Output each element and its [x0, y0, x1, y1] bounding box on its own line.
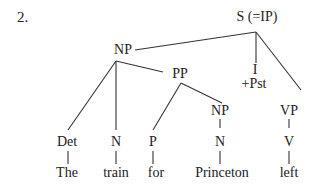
edge-s-np [135, 32, 256, 50]
node-vp: VP [280, 104, 298, 118]
word-left: left [280, 166, 299, 180]
node-pp: PP [172, 67, 188, 81]
edge-np-pp [116, 61, 163, 72]
edge-pp-p [153, 83, 181, 130]
word-the: The [56, 166, 78, 180]
node-s: S (=IP) [237, 10, 278, 24]
node-v: V [284, 135, 294, 149]
node-n-subject: N [111, 135, 121, 149]
node-np-object: NP [211, 104, 229, 118]
word-princeton: Princeton [195, 166, 249, 180]
node-n-object: N [215, 135, 225, 149]
word-train: train [103, 166, 129, 180]
node-i-feature: +Pst [241, 77, 266, 91]
node-np-subject: NP [114, 43, 132, 57]
tree-edges [0, 0, 324, 189]
node-p: P [149, 135, 157, 149]
node-det: Det [57, 135, 77, 149]
edge-pp-np [181, 83, 222, 103]
edge-np-det [68, 61, 116, 130]
word-for: for [148, 166, 164, 180]
node-i: I [253, 63, 258, 77]
